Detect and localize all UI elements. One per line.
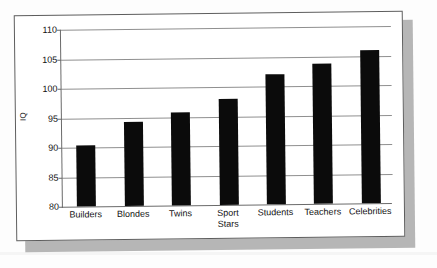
- y-tick-label: 80: [33, 203, 59, 212]
- chart-card: IQ 110 105 100 95 90 85 80: [14, 11, 406, 241]
- y-tick-label: 100: [32, 85, 58, 94]
- x-tick-label-blondes: Blondes: [106, 209, 160, 220]
- chart-figure: IQ 110 105 100 95 90 85 80: [15, 12, 405, 240]
- y-tick-label: 105: [31, 55, 57, 64]
- y-tick-label: 110: [31, 26, 57, 35]
- x-tick-label-students: Students: [248, 207, 302, 218]
- bar-students[interactable]: [265, 74, 285, 205]
- scanned-page: IQ 110 105 100 95 90 85 80: [0, 0, 437, 268]
- y-axis-title: IQ: [19, 112, 28, 121]
- bar-twins[interactable]: [171, 113, 191, 206]
- bar-blondes[interactable]: [124, 122, 144, 206]
- y-tickmark-80: [59, 207, 63, 208]
- x-tick-label-builders: Builders: [59, 209, 113, 220]
- bar-series: [61, 26, 392, 207]
- x-tick-label-teachers: Teachers: [296, 206, 350, 217]
- x-tick-label-twins: Twins: [153, 208, 207, 219]
- y-tick-label: 85: [33, 173, 59, 182]
- scan-artifact-band: [0, 252, 437, 255]
- bar-teachers[interactable]: [313, 63, 334, 204]
- x-tick-label-sport-stars: SportStars: [201, 207, 255, 229]
- y-tick-label: 90: [32, 144, 58, 153]
- y-axis-tick-labels: 110 105 100 95 90 85 80: [27, 16, 60, 240]
- y-tick-label: 95: [32, 114, 58, 123]
- x-tick-label-celebrities: Celebrities: [343, 206, 397, 217]
- plot-area: [60, 26, 392, 208]
- bar-celebrities[interactable]: [360, 50, 381, 203]
- bar-sport-stars[interactable]: [218, 98, 238, 204]
- bar-builders[interactable]: [76, 145, 96, 207]
- x-axis-tick-labels: Builders Blondes Twins SportStars Studen…: [62, 206, 392, 244]
